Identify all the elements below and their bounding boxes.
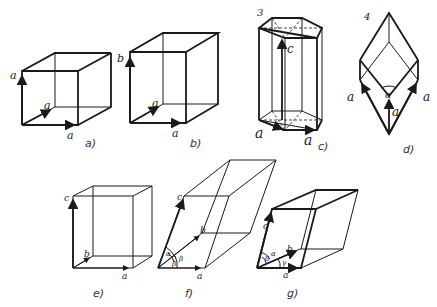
axis-label: a xyxy=(10,69,17,82)
angle-label: β xyxy=(264,255,269,263)
axis-label: a xyxy=(304,132,312,148)
axis-label: a xyxy=(392,105,399,119)
axis-label: c xyxy=(263,221,268,231)
axis-label: b xyxy=(84,249,90,259)
prism-f xyxy=(158,160,276,268)
angle-label: β xyxy=(171,260,176,268)
caption-c: c) xyxy=(318,140,328,153)
axis-label: a xyxy=(423,90,430,104)
axis-label: a xyxy=(122,271,127,281)
hexagonal-prism-c xyxy=(259,18,322,130)
axis-label: a xyxy=(172,127,179,140)
axis-label: a xyxy=(44,99,51,112)
angle-label: α xyxy=(166,250,171,258)
axis-label: a xyxy=(347,90,354,104)
axis-label: c xyxy=(287,42,294,56)
axis-label: a xyxy=(197,271,202,281)
axis-label: a xyxy=(67,129,74,142)
angle-label: γ xyxy=(282,259,287,267)
angle-label: α xyxy=(271,250,276,258)
axis-label: b xyxy=(287,244,293,254)
caption-a: a) xyxy=(85,137,96,150)
prism-b xyxy=(130,33,218,123)
angle-label: α xyxy=(385,90,391,100)
rhombohedron-d xyxy=(360,13,418,134)
cube-a xyxy=(22,53,111,125)
caption-g: g) xyxy=(287,287,298,300)
axis-label: c xyxy=(64,193,69,203)
axis-label: b xyxy=(117,52,124,65)
figure-number: 4 xyxy=(363,11,370,22)
figure-number: 3 xyxy=(257,7,263,18)
axis-label: a xyxy=(283,270,288,280)
caption-e: e) xyxy=(93,287,104,300)
caption-f: f) xyxy=(185,287,193,300)
axis-label: a xyxy=(152,97,159,110)
angle-label: β xyxy=(178,255,183,263)
caption-b: b) xyxy=(190,137,201,150)
axis-label: c xyxy=(177,192,182,202)
crystal-systems-diagram: a a a a) b a a b) xyxy=(0,0,437,307)
axis-label: a xyxy=(255,125,263,141)
caption-d: d) xyxy=(403,143,414,156)
axis-label: b xyxy=(200,225,206,235)
